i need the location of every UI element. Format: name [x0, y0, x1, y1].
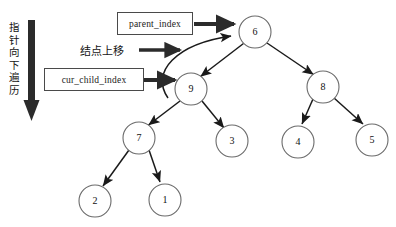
- node-8-circle[interactable]: [307, 71, 339, 103]
- node-9-circle[interactable]: [175, 73, 207, 105]
- node-3-circle[interactable]: [216, 125, 248, 157]
- node-6-circle[interactable]: [239, 16, 271, 48]
- diagram-svg: [0, 0, 396, 227]
- edge-6-9: [201, 44, 244, 77]
- edge-8-4: [302, 99, 313, 124]
- edge-7-1: [149, 150, 160, 182]
- tree-nodes: [79, 16, 388, 217]
- node-5-circle[interactable]: [356, 124, 388, 156]
- edge-9-3: [202, 101, 224, 128]
- tree-edges: [103, 43, 363, 186]
- node-up-label: 结点上移: [80, 42, 124, 58]
- cur-child-index-box[interactable]: cur_child_index: [44, 68, 144, 91]
- node-1-circle[interactable]: [149, 184, 181, 216]
- parent-index-label: parent_index: [129, 19, 181, 29]
- cur-child-index-label: cur_child_index: [62, 75, 127, 85]
- node-4-circle[interactable]: [282, 126, 314, 158]
- edge-8-5: [334, 98, 363, 124]
- traverse-down-label: 指针向下遍历: [8, 22, 19, 97]
- node-7-circle[interactable]: [123, 122, 155, 154]
- edge-6-8: [267, 43, 314, 75]
- edge-7-2: [103, 150, 129, 186]
- node-2-circle[interactable]: [79, 185, 111, 217]
- traverse-down-arrow: [24, 20, 40, 121]
- diagram-canvas: 6 9 8 7 3 4 5 2 1 parent_index cur_child…: [0, 0, 396, 227]
- edge-9-7: [149, 101, 181, 125]
- parent-index-box[interactable]: parent_index: [117, 12, 193, 35]
